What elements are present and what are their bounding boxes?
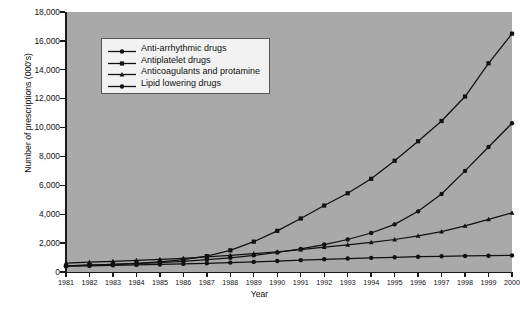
- y-axis-title: Number of prescriptions (000's): [23, 33, 33, 193]
- x-tick-label: 1990: [269, 279, 285, 287]
- legend-label: Anticoagulants and protamine: [141, 66, 260, 77]
- data-point: [134, 261, 138, 265]
- data-point: [369, 256, 373, 260]
- y-tick-label: 4,000: [16, 210, 60, 218]
- data-point: [486, 145, 490, 149]
- legend-item: Anticoagulants and protamine: [107, 66, 260, 78]
- data-point: [299, 247, 303, 251]
- y-tick-mark: [60, 185, 65, 186]
- x-tick-label: 1982: [81, 279, 97, 287]
- data-point: [205, 258, 209, 262]
- x-tick-label: 1985: [152, 279, 168, 287]
- x-tick-label: 1991: [293, 279, 309, 287]
- data-point: [158, 260, 162, 264]
- y-tick-mark: [60, 69, 65, 70]
- x-tick-label: 1984: [128, 279, 144, 287]
- x-tick-label: 1995: [387, 279, 403, 287]
- x-axis-title: Year: [0, 289, 519, 299]
- legend: Anti-arrhythmic drugsAntiplatelet drugsA…: [101, 38, 270, 94]
- x-tick-label: 1989: [246, 279, 262, 287]
- x-tick-label: 1981: [58, 279, 74, 287]
- data-point: [345, 237, 349, 241]
- data-point: [345, 256, 349, 260]
- legend-marker-circle-icon: [107, 78, 137, 89]
- x-tick-mark: [277, 272, 278, 277]
- y-tick-mark: [60, 242, 65, 243]
- data-point: [392, 255, 396, 259]
- data-point: [111, 262, 115, 266]
- data-point: [275, 250, 279, 254]
- data-point: [252, 260, 256, 264]
- series-line: [66, 213, 512, 263]
- x-tick-mark: [159, 272, 160, 277]
- x-tick-mark: [394, 272, 395, 277]
- legend-label: Lipid lowering drugs: [141, 78, 221, 89]
- x-tick-mark: [206, 272, 207, 277]
- x-tick-mark: [347, 272, 348, 277]
- data-point: [369, 231, 373, 235]
- data-point: [416, 139, 420, 143]
- x-tick-mark: [324, 272, 325, 277]
- x-tick-mark: [370, 272, 371, 277]
- legend-label: Anti-arrhythmic drugs: [141, 43, 227, 54]
- legend-label: Antiplatelet drugs: [141, 55, 211, 66]
- data-point: [392, 222, 396, 226]
- y-tick-mark: [60, 98, 65, 99]
- data-point: [510, 210, 515, 215]
- x-tick-mark: [253, 272, 254, 277]
- data-point: [439, 254, 443, 258]
- x-tick-mark: [300, 272, 301, 277]
- data-point: [463, 169, 467, 173]
- data-point: [486, 61, 490, 65]
- x-tick-label: 1987: [199, 279, 215, 287]
- data-point: [439, 119, 443, 123]
- x-tick-label: 1988: [222, 279, 238, 287]
- data-point: [510, 253, 514, 257]
- x-tick-label: 1999: [481, 279, 497, 287]
- x-tick-mark: [511, 272, 512, 277]
- data-point: [275, 259, 279, 263]
- data-point: [510, 32, 514, 36]
- x-tick-mark: [417, 272, 418, 277]
- data-point: [439, 192, 443, 196]
- x-tick-mark: [488, 272, 489, 277]
- data-point: [486, 253, 490, 257]
- y-tick-mark: [60, 271, 65, 272]
- data-point: [346, 191, 350, 195]
- series-lipid-lowering-drugs: [64, 121, 514, 268]
- data-point: [299, 258, 303, 262]
- data-point: [393, 159, 397, 163]
- x-tick-label: 1986: [175, 279, 191, 287]
- legend-item: Antiplatelet drugs: [107, 55, 260, 67]
- data-point: [252, 253, 256, 257]
- data-point: [299, 216, 303, 220]
- y-axis-labels: 02,0004,0006,0008,00010,00012,00014,0001…: [8, 0, 60, 314]
- x-tick-mark: [65, 272, 66, 277]
- y-tick-mark: [60, 156, 65, 157]
- data-point: [120, 84, 124, 88]
- x-tick-mark: [464, 272, 465, 277]
- legend-marker-triangle-icon: [107, 66, 137, 77]
- data-point: [228, 256, 232, 260]
- x-tick-mark: [112, 272, 113, 277]
- x-tick-mark: [136, 272, 137, 277]
- y-tick-mark: [60, 214, 65, 215]
- x-tick-label: 1993: [340, 279, 356, 287]
- x-tick-mark: [89, 272, 90, 277]
- x-tick-label: 1998: [457, 279, 473, 287]
- data-point: [64, 264, 68, 268]
- figure-caption: [0, 305, 519, 314]
- data-point: [120, 61, 124, 65]
- data-point: [87, 263, 91, 267]
- y-tick-label: 18,000: [16, 8, 60, 16]
- data-point: [322, 242, 326, 246]
- y-tick-mark: [60, 127, 65, 128]
- data-point: [322, 257, 326, 261]
- legend-item: Anti-arrhythmic drugs: [107, 43, 260, 55]
- y-tick-label: 0: [16, 268, 60, 276]
- data-point: [252, 240, 256, 244]
- legend-item: Lipid lowering drugs: [107, 78, 260, 90]
- data-point: [369, 177, 373, 181]
- data-point: [275, 229, 279, 233]
